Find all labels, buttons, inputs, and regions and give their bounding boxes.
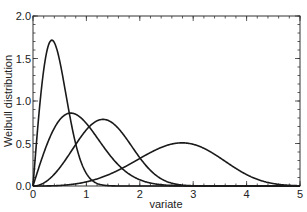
- curves: [33, 40, 300, 186]
- x-tick-label: 4: [244, 188, 250, 200]
- y-tick-label: 1.5: [16, 53, 31, 65]
- y-tick-label: 0.0: [16, 180, 31, 192]
- x-tick-label: 2: [137, 188, 143, 200]
- x-tick-label: 5: [297, 188, 303, 200]
- plot-frame: [33, 16, 300, 186]
- y-tick-label: 0.5: [16, 138, 31, 150]
- x-tick-label: 1: [83, 188, 89, 200]
- axis-ticks: 0123450.00.51.01.52.0: [16, 10, 303, 200]
- y-tick-label: 2.0: [16, 10, 31, 22]
- y-axis-label: Weibull distribution: [2, 55, 14, 147]
- x-axis-label: variate: [149, 198, 182, 210]
- y-tick-label: 1.0: [16, 95, 31, 107]
- weibull-chart: 0123450.00.51.01.52.0 variate Weibull di…: [0, 0, 307, 212]
- x-tick-label: 3: [190, 188, 196, 200]
